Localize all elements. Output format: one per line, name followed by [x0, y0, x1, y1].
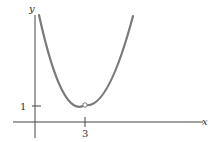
- graph: y x 3 1: [0, 0, 212, 142]
- y-axis-label: y: [28, 3, 35, 14]
- x-axis-label: x: [202, 116, 208, 127]
- hole-open-circle: [83, 103, 87, 107]
- parabola-curve: [39, 15, 133, 107]
- y-tick-label: 1: [20, 101, 26, 112]
- x-tick-label: 3: [82, 128, 88, 139]
